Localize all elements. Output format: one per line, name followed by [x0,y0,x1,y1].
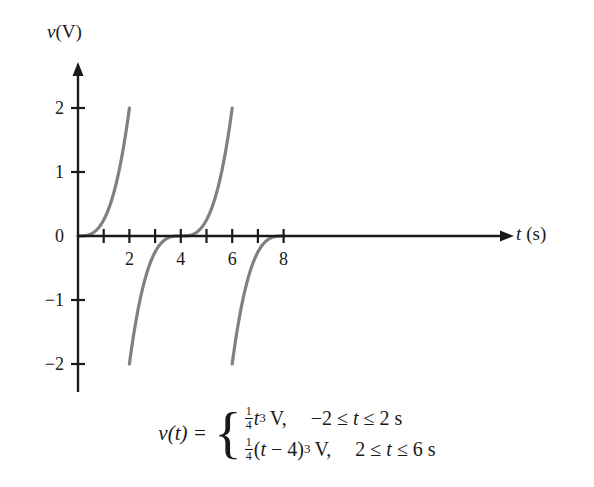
curly-brace: { [214,412,242,454]
chart-page: v(V) t(s) 210−1−2 2468 v(t) = { 1 4 t3V,… [0,0,594,487]
equation-row-1-cond-right: ≤ 2 s [364,407,403,430]
y-tick-label: 1 [36,163,64,181]
x-tick-label: 6 [219,250,245,268]
fraction-one-quarter-2: 1 4 [245,436,253,461]
equation-row-1-cond-left: −2 ≤ [311,407,348,430]
equation-lhs-rest: (t) = [168,421,207,445]
equation-row-1-condition: −2 ≤t≤ 2 s [311,407,403,430]
y-tick-label: 2 [36,99,64,117]
equation-row-1-cond-var: t [353,407,359,430]
x-axis-label-unit: (s) [526,223,546,244]
y-tick-label: −2 [36,355,64,373]
plot-area: v(V) t(s) 210−1−2 2468 [0,0,594,400]
fraction-numerator: 1 [245,405,253,417]
equation-row-1: 1 4 t3V, −2 ≤t≤ 2 s [245,404,436,432]
equation-row-2-base: t [260,438,266,461]
x-axis-arrow [500,231,514,242]
fraction-denominator: 4 [245,418,253,431]
equation-lhs-var: v [158,421,167,445]
y-tick-label: 0 [36,227,64,245]
equation-row-2-cond-right: ≤ 6 s [397,438,436,461]
equation-row-2: 1 4 (t− 4)3V, 2 ≤t≤ 6 s [245,435,436,463]
equation-row-2-cond-var: t [386,438,392,461]
x-tick-label: 4 [168,250,194,268]
equation-row-2-cond-left: 2 ≤ [355,438,381,461]
x-axis-label: t(s) [516,224,546,243]
x-tick-label: 8 [271,250,297,268]
equation-row-1-expression: 1 4 t3V, [245,405,287,430]
equation-left-hand-side: v(t) = [158,421,207,446]
y-axis-label-unit: (V) [55,21,81,42]
fraction-one-quarter: 1 4 [245,405,253,430]
y-axis-arrow [73,62,84,76]
equation-row-2-minus-four: − 4) [271,438,304,461]
y-tick-label: −1 [36,291,64,309]
curve-segment [78,108,129,236]
equation-row-1-unit: V, [270,407,287,430]
x-tick-label: 2 [116,250,142,268]
piecewise-equation: v(t) = { 1 4 t3V, −2 ≤t≤ 2 s [0,404,594,463]
equation-row-2-unit: V, [314,438,331,461]
x-axis-label-var: t [516,223,521,244]
fraction-numerator-2: 1 [245,436,253,448]
equation-row-2-expression: 1 4 (t− 4)3V, [245,436,332,461]
fraction-denominator-2: 4 [245,449,253,462]
y-axis-label: v(V) [47,22,82,41]
equation-row-2-open-paren: ( [254,438,261,461]
equation-row-2-condition: 2 ≤t≤ 6 s [355,438,435,461]
